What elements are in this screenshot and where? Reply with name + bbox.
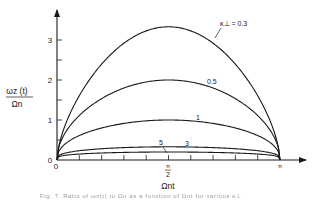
- x-tick-label-pi: π: [278, 163, 282, 169]
- y-tick-label-3: 3: [48, 36, 53, 45]
- figure-caption: Fig. 7. Ratio of ωz(t) to Ωn as a functi…: [40, 192, 280, 199]
- curve-label-kappa-0.5: 0.5: [207, 78, 217, 85]
- curve-label-kappa-5: 5: [159, 139, 163, 146]
- x-axis-ticks: [79, 155, 257, 160]
- curve-label-pointer-0.3: [215, 28, 221, 38]
- x-axis-label: Ωnt: [161, 181, 175, 191]
- y-axis-label-denominator: Ωn: [11, 99, 22, 109]
- y-axis-label-numerator: ωz (t): [6, 86, 27, 96]
- curves: [57, 27, 280, 160]
- chart-figure: 3 2 1 0 0 π 2 π ωz (t) Ωn Ωnt κ⊥ = 0.3 0…: [0, 0, 313, 202]
- y-tick-label-0: 0: [48, 156, 53, 165]
- curve-label-kappa-3: 3: [185, 140, 189, 147]
- chart-plot: 3 2 1 0 0 π 2 π ωz (t) Ωn Ωnt κ⊥ = 0.3 0…: [0, 0, 313, 202]
- y-tick-label-1: 1: [48, 116, 53, 125]
- x-tick-label-half-pi-num: π: [166, 163, 170, 169]
- y-axis-ticks: [57, 40, 62, 140]
- y-tick-label-2: 2: [48, 76, 53, 85]
- x-tick-label-half-pi-den: 2: [166, 171, 170, 178]
- curve-label-kappa-1: 1: [196, 114, 200, 121]
- curve-kappa-1: [57, 120, 280, 160]
- curve-label-kappa-0.3: κ⊥ = 0.3: [220, 20, 247, 27]
- x-tick-label-0: 0: [54, 162, 59, 171]
- curve-kappa-0.3: [57, 27, 280, 160]
